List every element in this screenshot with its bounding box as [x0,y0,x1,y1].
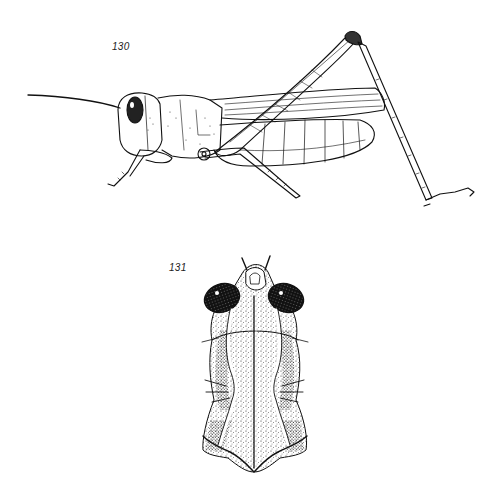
illustration-plate: 130 131 [0,0,503,489]
figure-131-pronotum-drawing [0,0,503,489]
